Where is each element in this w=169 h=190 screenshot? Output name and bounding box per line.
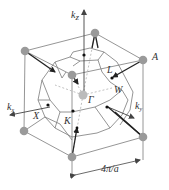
label-W: W — [114, 84, 124, 95]
label-kz: kz — [71, 9, 79, 22]
point-bottom — [76, 127, 79, 130]
zone-edge — [55, 62, 66, 78]
point-X — [46, 103, 49, 106]
label-L: L — [106, 64, 113, 75]
cube-edge — [95, 33, 143, 60]
point-L — [110, 76, 113, 79]
label-gamma: Γ — [87, 94, 94, 105]
point-top-face — [82, 53, 85, 56]
corner-point — [68, 153, 77, 162]
label-kx: kx — [7, 101, 14, 113]
corner-point — [139, 133, 148, 142]
zone-face-top — [70, 48, 104, 61]
point-K — [71, 109, 74, 112]
corner-point — [20, 127, 29, 136]
zone-edge — [55, 112, 60, 128]
arrow-bottom — [72, 128, 77, 157]
corner-point — [139, 56, 148, 65]
label-X: X — [32, 110, 40, 121]
label-ky: ky — [135, 100, 142, 112]
gamma-point — [79, 91, 88, 100]
point-ky — [105, 105, 108, 108]
cube-edge — [24, 51, 25, 131]
label-dimension: 4π/a — [101, 163, 119, 174]
label-K: K — [63, 115, 72, 126]
cube-edge — [25, 33, 95, 51]
cube-edge — [72, 137, 143, 157]
zone-edge — [95, 107, 110, 128]
brillouin-zone-diagram: kz A L W Γ X K kx ky 4π/a — [0, 0, 169, 190]
zone-edge — [42, 80, 50, 100]
cube-edge — [24, 131, 72, 157]
zone-edge — [73, 61, 80, 66]
arrow-back-left — [25, 51, 55, 72]
label-A: A — [151, 51, 159, 62]
corner-point — [21, 47, 30, 56]
zone-edge — [55, 128, 110, 137]
corner-point — [91, 29, 100, 38]
corner-point — [68, 71, 77, 80]
